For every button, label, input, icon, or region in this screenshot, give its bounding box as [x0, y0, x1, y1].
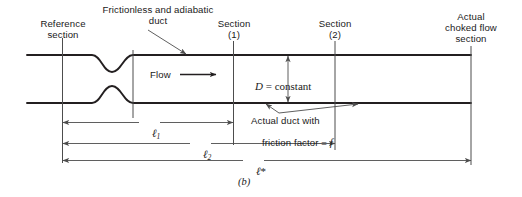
ell-2-subscript: 2 — [208, 153, 212, 162]
friction-factor-text: friction factor = — [262, 137, 330, 148]
label-flow: Flow — [150, 69, 171, 80]
ell-star-asterisk: * — [261, 165, 267, 177]
figure-duct-choked-flow: Referencesection Frictionless and adiaba… — [0, 0, 522, 197]
label-section-2: Section(2) — [297, 18, 373, 40]
label-section-1: Section(1) — [196, 18, 272, 40]
dimension-label-ell-1: ℓ1 — [141, 115, 160, 153]
friction-factor-symbol: f — [330, 136, 333, 148]
dimension-label-ell-2: ℓ2 — [192, 136, 211, 174]
diameter-relation: = constant — [263, 80, 311, 92]
annotation-diameter-constant: D = constant — [244, 68, 311, 104]
diameter-symbol: D — [255, 80, 263, 92]
leader-actual-duct-friction-long — [279, 104, 358, 113]
ell-1-subscript: 1 — [157, 132, 161, 141]
label-actual-duct-friction-line1: Actual duct with — [251, 115, 320, 126]
label-actual-choked-flow-section: Actualchoked flowsection — [419, 11, 522, 44]
leader-frictionless-duct — [148, 30, 186, 54]
figure-caption: (b) — [238, 176, 250, 187]
leader-actual-duct-friction-short — [266, 104, 279, 113]
